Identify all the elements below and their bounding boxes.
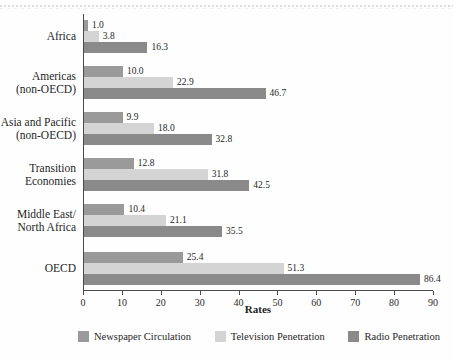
x-tick-60 (316, 291, 317, 295)
category-axis-labels: AfricaAmericas(non-OECD)Asia and Pacific… (0, 14, 76, 290)
category-label: Middle East/North Africa (17, 208, 76, 234)
bar-value-label: 86.4 (424, 274, 441, 285)
bar-group: 12.831.842.5 (84, 158, 434, 191)
category-label-line: Africa (47, 30, 76, 43)
bar-radio (84, 226, 222, 237)
x-axis-line (83, 290, 433, 291)
category-label: Africa (47, 30, 76, 43)
legend-swatch-icon (215, 331, 226, 342)
legend-item[interactable]: Radio Penetration (348, 331, 440, 342)
bar-newspaper (84, 66, 123, 77)
category-label: Americas(non-OECD) (16, 70, 76, 96)
bar-value-label: 22.9 (177, 77, 194, 88)
category-label: Asia and Pacific(non-OECD) (1, 116, 76, 142)
bar-newspaper (84, 204, 124, 215)
category-label-line: Middle East/ (17, 208, 76, 221)
bar-value-label: 32.8 (216, 134, 233, 145)
category-label-line: Asia and Pacific (1, 116, 76, 129)
scan-artifact-line (0, 5, 453, 7)
bar-value-label: 25.4 (187, 252, 204, 263)
x-tick-90 (433, 291, 434, 295)
bar-value-label: 51.3 (288, 263, 305, 274)
bar-group: 10.421.135.5 (84, 204, 434, 237)
category-label-line: Economies (25, 175, 76, 188)
x-tick-0 (83, 291, 84, 295)
bar-television (84, 263, 284, 274)
y-axis-line (83, 14, 84, 290)
bar-radio (84, 274, 420, 285)
bar-radio (84, 180, 249, 191)
bar-television (84, 169, 208, 180)
category-label-line: Americas (16, 70, 76, 83)
bar-value-label: 12.8 (138, 158, 155, 169)
bar-group: 10.022.946.7 (84, 66, 434, 99)
legend-label: Radio Penetration (364, 331, 440, 342)
bar-group: 9.918.032.8 (84, 112, 434, 145)
bar-newspaper (84, 158, 134, 169)
chart-legend: Newspaper CirculationTelevision Penetrat… (78, 331, 440, 342)
legend-swatch-icon (348, 331, 359, 342)
x-tick-70 (355, 291, 356, 295)
bar-value-label: 46.7 (270, 88, 287, 99)
chart-page: AfricaAmericas(non-OECD)Asia and Pacific… (0, 0, 453, 363)
legend-label: Newspaper Circulation (94, 331, 191, 342)
bar-television (84, 215, 166, 226)
legend-label: Television Penetration (231, 331, 325, 342)
category-label-line: (non-OECD) (16, 83, 76, 96)
bar-newspaper (84, 252, 183, 263)
category-label-line: OECD (45, 262, 76, 275)
category-label: TransitionEconomies (25, 162, 76, 188)
bar-value-label: 35.5 (226, 226, 243, 237)
category-label-line: (non-OECD) (1, 129, 76, 142)
bar-television (84, 123, 154, 134)
category-label-line: Transition (25, 162, 76, 175)
category-label-line: North Africa (17, 221, 76, 234)
bar-value-label: 3.8 (103, 31, 115, 42)
bar-television (84, 77, 173, 88)
bar-value-label: 21.1 (170, 215, 187, 226)
bar-value-label: 10.0 (127, 66, 144, 77)
x-tick-10 (122, 291, 123, 295)
bar-value-label: 42.5 (253, 180, 270, 191)
x-tick-80 (394, 291, 395, 295)
legend-item[interactable]: Newspaper Circulation (78, 331, 191, 342)
bar-newspaper (84, 20, 88, 31)
bar-radio (84, 134, 212, 145)
plot-area: 0102030405060708090 1.03.816.310.022.946… (83, 14, 433, 290)
bar-value-label: 18.0 (158, 123, 175, 134)
bar-group: 1.03.816.3 (84, 20, 434, 53)
scan-artifact-line-secondary (0, 8, 453, 9)
legend-swatch-icon (78, 331, 89, 342)
bar-newspaper (84, 112, 123, 123)
x-tick-30 (200, 291, 201, 295)
x-tick-40 (239, 291, 240, 295)
x-tick-50 (277, 291, 278, 295)
x-tick-20 (161, 291, 162, 295)
legend-item[interactable]: Television Penetration (215, 331, 325, 342)
category-label: OECD (45, 262, 76, 275)
bar-value-label: 10.4 (128, 204, 145, 215)
bar-value-label: 16.3 (151, 42, 168, 53)
x-axis-title: Rates (83, 303, 433, 315)
bar-value-label: 1.0 (92, 20, 104, 31)
bar-group: 25.451.386.4 (84, 252, 434, 285)
bar-radio (84, 42, 147, 53)
bar-radio (84, 88, 266, 99)
bar-television (84, 31, 99, 42)
bar-value-label: 31.8 (212, 169, 229, 180)
bar-value-label: 9.9 (127, 112, 139, 123)
